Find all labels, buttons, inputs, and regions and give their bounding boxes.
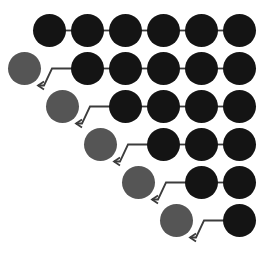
dark-node[interactable] [71, 14, 104, 47]
dark-node[interactable] [185, 52, 218, 85]
dark-node[interactable] [223, 128, 256, 161]
dark-node[interactable] [109, 14, 142, 47]
dark-node[interactable] [147, 14, 180, 47]
dark-node[interactable] [147, 90, 180, 123]
dark-node[interactable] [223, 166, 256, 199]
dark-node[interactable] [185, 128, 218, 161]
gray-node[interactable] [122, 166, 155, 199]
dark-node[interactable] [223, 204, 256, 237]
dark-node[interactable] [223, 52, 256, 85]
nodes-layer [8, 14, 256, 237]
dark-node[interactable] [71, 52, 104, 85]
dark-node[interactable] [147, 128, 180, 161]
dark-node[interactable] [109, 52, 142, 85]
gray-node[interactable] [84, 128, 117, 161]
diagram-svg [0, 0, 272, 261]
dark-node[interactable] [185, 14, 218, 47]
diagram-canvas [0, 0, 272, 261]
gray-node[interactable] [46, 90, 79, 123]
dark-node[interactable] [223, 14, 256, 47]
gray-node[interactable] [160, 204, 193, 237]
dark-node[interactable] [185, 90, 218, 123]
dark-node[interactable] [109, 90, 142, 123]
dark-node[interactable] [223, 90, 256, 123]
dark-node[interactable] [147, 52, 180, 85]
dark-node[interactable] [33, 14, 66, 47]
dark-node[interactable] [185, 166, 218, 199]
gray-node[interactable] [8, 52, 41, 85]
